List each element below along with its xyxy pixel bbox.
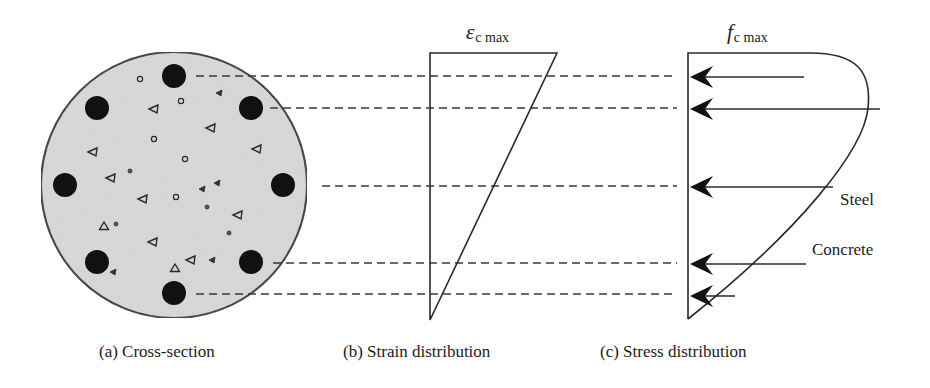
caption-stress-distribution: (c) Stress distribution — [600, 342, 746, 362]
strain-subscript: c max — [475, 30, 509, 45]
stress-distribution-diagram — [688, 53, 880, 319]
caption-strain-distribution: (b) Strain distribution — [343, 342, 490, 362]
force-arrow — [690, 98, 880, 120]
steel-annotation: Steel — [840, 190, 874, 210]
f-symbol: f — [727, 20, 733, 44]
force-arrow — [690, 285, 735, 307]
concrete-section-circle — [41, 52, 307, 318]
rebar-icon — [85, 96, 109, 120]
epsilon-symbol: ε — [466, 20, 474, 44]
force-arrows — [690, 66, 880, 307]
aggregate-dot — [114, 222, 118, 226]
concrete-annotation: Concrete — [812, 240, 873, 260]
rebar-icon — [271, 173, 295, 197]
aggregate-dot — [227, 231, 231, 235]
rebar-icon — [53, 173, 77, 197]
force-arrow — [690, 66, 804, 88]
rebar-icon — [85, 250, 109, 274]
stress-block-outline — [688, 53, 869, 319]
rebar-icon — [162, 281, 186, 305]
stress-max-label: fc max — [727, 20, 768, 46]
aggregate-dot — [128, 169, 132, 173]
rebar-icon — [239, 250, 263, 274]
force-arrow — [690, 176, 833, 198]
aggregate-dot — [205, 205, 209, 209]
rebar-icon — [162, 64, 186, 88]
cross-section-group — [41, 52, 307, 318]
caption-cross-section: (a) Cross-section — [99, 342, 215, 362]
diagram-canvas — [0, 0, 930, 388]
rc-column-section-figure: εc max fc max Steel Concrete (a) Cross-s… — [0, 0, 930, 388]
strain-max-label: εc max — [466, 20, 509, 46]
stress-subscript: c max — [734, 30, 768, 45]
rebar-icon — [239, 96, 263, 120]
force-arrow — [690, 253, 806, 275]
